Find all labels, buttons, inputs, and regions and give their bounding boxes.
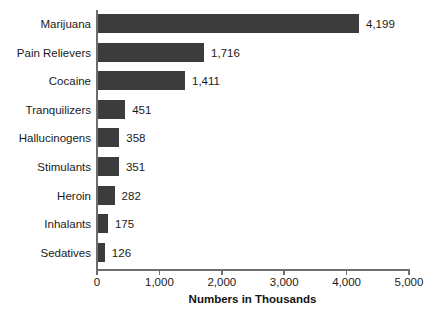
x-tick-mark	[96, 269, 98, 275]
bar	[97, 100, 125, 119]
bar-value-label: 358	[126, 126, 145, 150]
x-tick-mark	[283, 269, 285, 275]
x-tick-mark	[159, 269, 161, 275]
bar-row: Heroin282	[0, 184, 436, 208]
bar-value-label: 282	[122, 184, 141, 208]
category-label: Inhalants	[44, 212, 91, 236]
bar-value-label: 351	[126, 155, 145, 179]
x-tick-mark	[408, 269, 410, 275]
bar-value-label: 1,716	[211, 41, 240, 65]
bar	[97, 128, 119, 147]
bar	[97, 243, 105, 262]
bar-value-label: 126	[112, 241, 131, 265]
bar-value-label: 1,411	[192, 69, 220, 93]
category-label: Cocaine	[49, 69, 91, 93]
x-axis-title: Numbers in Thousands	[96, 293, 409, 305]
x-tick-label: 5,000	[369, 276, 436, 288]
category-label: Marijuana	[41, 12, 92, 36]
x-tick-mark	[346, 269, 348, 275]
bar-row: Inhalants175	[0, 212, 436, 236]
bar-chart: Marijuana4,199Pain Relievers1,716Cocaine…	[0, 0, 436, 318]
bar-row: Marijuana4,199	[0, 12, 436, 36]
y-axis-line	[96, 10, 98, 270]
bar-value-label: 451	[132, 98, 151, 122]
category-label: Heroin	[57, 184, 91, 208]
bar-row: Cocaine1,411	[0, 69, 436, 93]
bar-value-label: 175	[115, 212, 134, 236]
bar-row: Sedatives126	[0, 241, 436, 265]
bar-row: Stimulants351	[0, 155, 436, 179]
category-label: Pain Relievers	[17, 41, 91, 65]
bar-row: Tranquilizers451	[0, 98, 436, 122]
bar	[97, 43, 204, 62]
bar	[97, 214, 108, 233]
bar	[97, 157, 119, 176]
bar	[97, 14, 359, 33]
bar-value-label: 4,199	[366, 12, 395, 36]
bar	[97, 71, 185, 90]
x-tick-mark	[221, 269, 223, 275]
bar	[97, 186, 115, 205]
category-label: Sedatives	[40, 241, 91, 265]
bar-row: Pain Relievers1,716	[0, 41, 436, 65]
bar-row: Hallucinogens358	[0, 126, 436, 150]
plot-area: Marijuana4,199Pain Relievers1,716Cocaine…	[0, 0, 436, 270]
category-label: Hallucinogens	[19, 126, 91, 150]
x-axis-line	[96, 269, 409, 271]
category-label: Stimulants	[37, 155, 91, 179]
category-label: Tranquilizers	[26, 98, 91, 122]
